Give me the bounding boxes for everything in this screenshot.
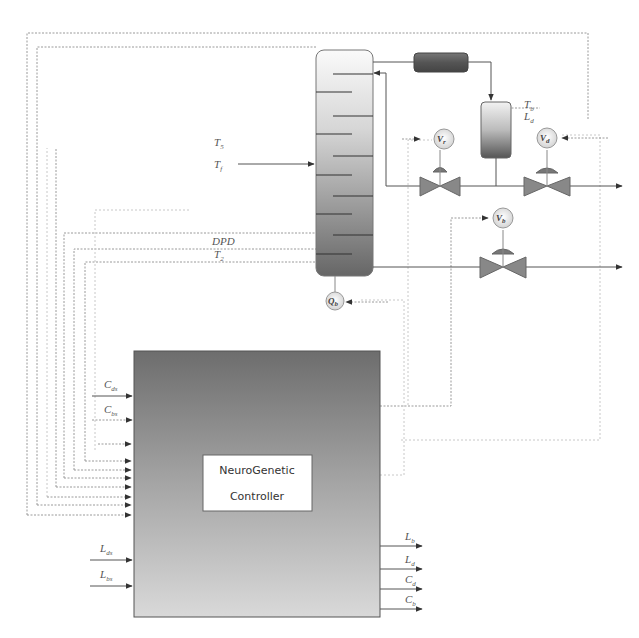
feed-label-T5: T5 — [214, 136, 224, 151]
reflux-line — [374, 73, 420, 186]
reboiler-Qb: Qb — [326, 276, 344, 310]
svg-text:Cbs: Cbs — [104, 403, 118, 418]
controller-inputs: Cds Cbs Lds Lbs — [90, 378, 132, 586]
svg-text:Ld: Ld — [404, 553, 415, 568]
controller-title-line1: NeuroGenetic — [219, 464, 294, 477]
distillation-column — [316, 50, 373, 276]
svg-text:Cds: Cds — [104, 378, 118, 393]
svg-text:Cd: Cd — [405, 573, 416, 588]
controller-title-line2: Controller — [230, 490, 285, 503]
dpd-label: DPD — [211, 235, 235, 247]
t2-label: T2 — [214, 248, 224, 263]
svg-text:Lds: Lds — [99, 542, 113, 557]
process-diagram: T5 Tf DPD T2 Tb Ld Vr — [0, 0, 639, 638]
instrument-Vr: Vr — [434, 129, 454, 149]
neurogenetic-controller: NeuroGenetic Controller — [134, 351, 380, 617]
valve-Vr: Vr — [420, 129, 460, 196]
svg-text:Cb: Cb — [405, 593, 416, 608]
feed-stream: T5 Tf DPD T2 — [211, 136, 314, 263]
feed-label-Tf: Tf — [214, 158, 223, 173]
svg-text:Lbs: Lbs — [99, 568, 113, 583]
controller-outputs: Lb Ld Cd Cb — [380, 530, 422, 609]
svg-text:Lb: Lb — [404, 530, 415, 545]
condenser — [373, 53, 491, 100]
reflux-accumulator: Tb Ld — [481, 98, 534, 186]
instrument-Vb: Vb — [493, 208, 513, 228]
instrument-Vd: Vd — [537, 128, 557, 148]
valve-Vd: Vd — [524, 128, 570, 196]
